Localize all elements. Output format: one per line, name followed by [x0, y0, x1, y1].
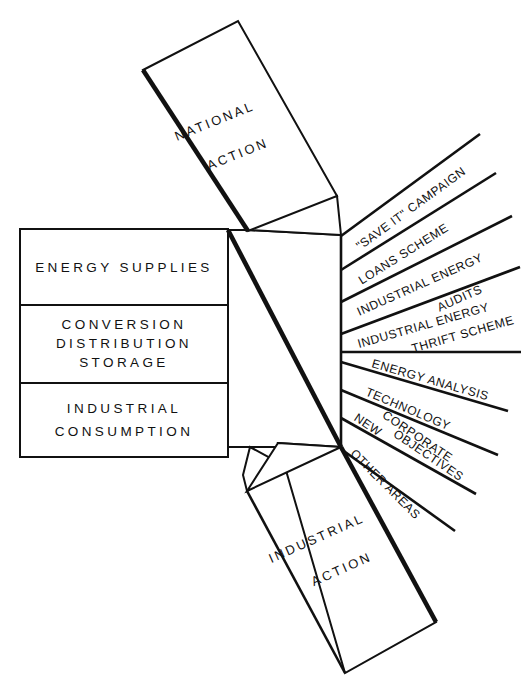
- row-industrial-consumption-line-0: INDUSTRIAL: [67, 401, 181, 416]
- energy-system-stack: ENERGY SUPPLIES CONVERSION DISTRIBUTION …: [20, 229, 228, 457]
- row-conversion-line-0: CONVERSION: [62, 317, 187, 332]
- fan-label-new-corporate-objectives-line-0: NEW: [352, 411, 385, 439]
- action-fan: "SAVE IT" CAMPAIGN LOANS SCHEME INDUSTRI…: [341, 134, 521, 531]
- industrial-action-block: INDUSTRIAL ACTION: [243, 443, 436, 673]
- row-conversion-line-2: STORAGE: [79, 355, 169, 370]
- row-conversion-line-1: DISTRIBUTION: [56, 336, 192, 351]
- fan-label-save-it-campaign: "SAVE IT" CAMPAIGN: [353, 164, 468, 253]
- fan-line-save-it-campaign: [341, 134, 480, 236]
- row-industrial-consumption-line-1: CONSUMPTION: [55, 424, 194, 439]
- national-action-block: NATIONAL ACTION: [143, 21, 341, 235]
- diagram-canvas: ENERGY SUPPLIES CONVERSION DISTRIBUTION …: [0, 0, 521, 689]
- row-energy-supplies-line-0: ENERGY SUPPLIES: [35, 260, 213, 275]
- national-block-face: [143, 21, 337, 231]
- energy-action-diagram: ENERGY SUPPLIES CONVERSION DISTRIBUTION …: [0, 0, 521, 689]
- fan-line-energy-analysis: [341, 362, 508, 411]
